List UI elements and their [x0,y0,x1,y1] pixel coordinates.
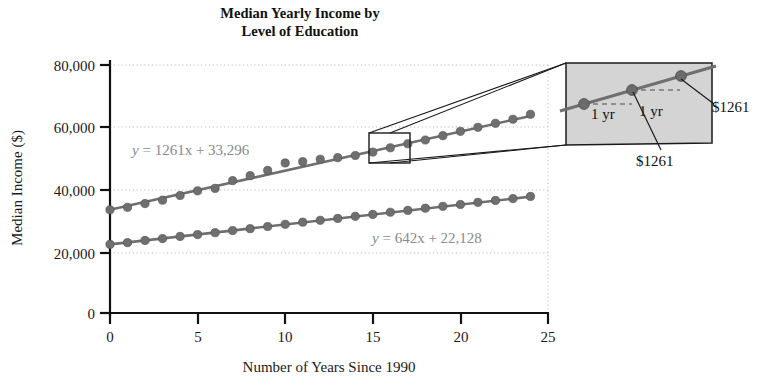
y-tick-label-20000: 20,000 [54,246,95,262]
data-point [123,203,131,211]
x-axis-ticks [110,313,548,324]
data-point [421,136,429,144]
data-point [509,115,517,123]
data-point [316,216,324,224]
data-point [334,214,342,222]
data-point [176,191,184,199]
data-point [176,232,184,240]
data-point [316,155,324,163]
magnified-inset: 1 yr 1 yr $1261 $1261 [560,63,750,169]
data-point [334,154,342,162]
y-tick-label-40000: 40,000 [54,183,95,199]
data-point [141,236,149,244]
data-point [229,226,237,234]
data-point [123,239,131,247]
data-point [526,192,534,200]
x-tick-label-5: 5 [194,329,202,345]
data-point [491,196,499,204]
data-point [194,187,202,195]
data-point [369,210,377,218]
data-point [106,206,114,214]
income-education-chart: Median Yearly Income by Level of Educati… [0,0,757,388]
data-point [351,212,359,220]
data-point [281,159,289,167]
data-point [439,132,447,140]
y-axis-label: Median Income ($) [9,130,26,246]
data-point [211,229,219,237]
data-point [264,222,272,230]
x-axis-label: Number of Years Since 1990 [243,359,416,375]
inset-rise-label-right: $1261 [712,99,750,115]
magnifier-callout-lines [369,63,566,163]
data-point [264,166,272,174]
data-point [194,230,202,238]
data-point [439,202,447,210]
data-point [404,206,412,214]
data-point [281,220,289,228]
data-point [299,218,307,226]
data-point [474,123,482,131]
x-tick-label-10: 10 [278,329,293,345]
data-point [509,195,517,203]
data-point [141,199,149,207]
data-point [491,119,499,127]
data-point [158,235,166,243]
data-point [456,200,464,208]
chart-title-line1: Median Yearly Income by [220,5,380,21]
y-tick-label-80000: 80,000 [54,58,95,74]
data-point [474,198,482,206]
data-point [229,177,237,185]
data-point [386,208,394,216]
inset-run-label-left: 1 yr [591,106,615,122]
x-tick-label-0: 0 [106,329,114,345]
data-point [369,148,377,156]
x-tick-label-20: 20 [454,329,469,345]
x-tick-label-25: 25 [541,329,556,345]
y-axis-ticks [100,65,110,313]
y-tick-label-60000: 60,000 [54,120,95,136]
data-point [456,127,464,135]
data-series-layer [106,110,535,248]
inset-rise-label-lower: $1261 [636,153,674,169]
series-upper [106,110,535,214]
x-tick-label-15: 15 [366,329,381,345]
inset-data-point [676,71,687,82]
data-point [299,158,307,166]
equation-label-upper: y = 1261x + 33,296 [130,142,250,158]
inset-data-point [627,85,638,96]
inset-data-point [579,99,590,110]
chart-title-line2: Level of Education [242,23,359,39]
data-point [351,151,359,159]
data-point [211,184,219,192]
y-tick-label-0: 0 [88,306,96,322]
data-point [246,172,254,180]
data-point [386,144,394,152]
equation-label-lower: y = 642x + 22,128 [370,230,482,246]
data-point [421,204,429,212]
data-point [246,225,254,233]
figure-container: Median Yearly Income by Level of Educati… [0,0,757,388]
data-point [158,196,166,204]
data-point [404,140,412,148]
data-point [106,240,114,248]
data-point [526,110,534,118]
